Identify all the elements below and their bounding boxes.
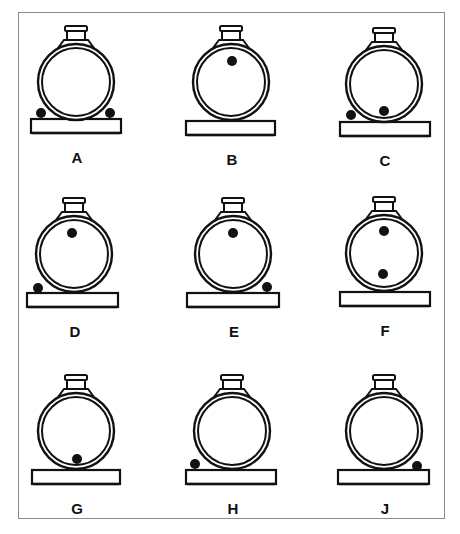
base-plate <box>32 470 120 484</box>
tank-neck <box>222 31 240 40</box>
panel-h: H <box>186 375 276 517</box>
position-dot <box>72 454 82 464</box>
panel-a: A <box>31 26 121 166</box>
panel-b: B <box>186 26 275 168</box>
tank-neck <box>67 31 85 40</box>
position-dot <box>36 108 46 118</box>
panel-j: J <box>338 375 429 517</box>
option-label: F <box>380 322 389 339</box>
tank-cap <box>63 198 85 203</box>
position-dot <box>378 269 388 279</box>
position-dot <box>33 283 43 293</box>
option-label: C <box>380 152 391 169</box>
tank-cap <box>373 28 395 33</box>
base-plate <box>186 121 275 135</box>
tank-neck <box>375 202 393 211</box>
base-plate <box>338 470 429 484</box>
tank-neck <box>67 380 85 389</box>
tank-cap <box>222 198 244 203</box>
option-label: J <box>381 500 389 517</box>
position-dot <box>379 106 389 116</box>
option-label: E <box>229 323 239 340</box>
tank-inner-wall <box>350 397 418 465</box>
base-plate <box>27 293 118 307</box>
tank-neck <box>223 380 241 389</box>
option-label: G <box>71 500 83 517</box>
position-dot <box>67 228 77 238</box>
tank-cap <box>373 375 395 380</box>
position-dot <box>346 110 356 120</box>
tank-inner-wall <box>42 48 110 116</box>
panel-f: F <box>340 197 430 339</box>
tank-neck <box>65 203 83 212</box>
base-plate <box>186 470 276 484</box>
option-label: H <box>228 500 239 517</box>
position-dot <box>379 226 389 236</box>
tank-cap <box>221 375 243 380</box>
tank-cap <box>65 26 87 31</box>
panel-d: D <box>27 198 118 340</box>
base-plate <box>187 293 279 307</box>
tank-neck <box>224 203 242 212</box>
tank-neck <box>375 380 393 389</box>
base-plate <box>340 122 430 136</box>
panel-c: C <box>340 28 430 169</box>
tank-diagram: ABCDEFGHJ <box>0 0 460 534</box>
position-dot <box>262 282 272 292</box>
tank-inner-wall <box>198 397 266 465</box>
position-dot <box>190 459 200 469</box>
position-dot <box>228 228 238 238</box>
position-dot <box>105 108 115 118</box>
option-label: B <box>227 151 238 168</box>
option-label: D <box>70 323 81 340</box>
base-plate <box>340 292 430 306</box>
tank-cap <box>373 197 395 202</box>
option-label: A <box>72 149 83 166</box>
position-dot <box>412 461 422 471</box>
panel-g: G <box>32 375 120 517</box>
tank-neck <box>375 33 393 42</box>
tank-cap <box>65 375 87 380</box>
panel-e: E <box>187 198 279 340</box>
position-dot <box>227 56 237 66</box>
tank-cap <box>220 26 242 31</box>
